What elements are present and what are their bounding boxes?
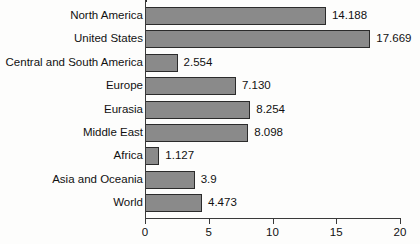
x-axis-tick-label: 10 <box>266 227 279 239</box>
bar-value-label: 14.188 <box>332 10 367 22</box>
x-axis-tick-label: 5 <box>206 227 212 239</box>
bar-value-label: 1.127 <box>165 150 194 162</box>
category-label: North America <box>70 10 143 22</box>
category-label: Africa <box>114 150 143 162</box>
bar <box>145 147 159 165</box>
bar-chart: North AmericaUnited StatesCentral and So… <box>0 0 420 244</box>
bar-value-label: 7.130 <box>242 80 271 92</box>
bar-value-label: 17.669 <box>376 33 411 45</box>
bar <box>145 7 326 25</box>
y-axis-line <box>145 0 146 219</box>
bar-value-label: 2.554 <box>184 57 213 69</box>
x-axis-tick-label: 0 <box>142 227 148 239</box>
bar <box>145 101 250 119</box>
category-label: Europe <box>106 80 143 92</box>
bar-value-label: 8.098 <box>254 127 283 139</box>
x-axis-tick-label: 20 <box>394 227 407 239</box>
category-label: Central and South America <box>6 57 143 69</box>
category-label: Middle East <box>83 127 143 139</box>
x-axis-tick <box>273 219 274 224</box>
bar <box>145 124 248 142</box>
bar <box>145 171 195 189</box>
bar <box>145 54 178 72</box>
x-axis-tick <box>145 219 146 224</box>
plot-area: North AmericaUnited StatesCentral and So… <box>0 0 420 244</box>
x-axis-tick <box>400 219 401 224</box>
bar-value-label: 3.9 <box>201 174 217 186</box>
bar <box>145 194 202 212</box>
bar-value-label: 8.254 <box>256 104 285 116</box>
bar <box>145 30 370 48</box>
x-axis-tick-label: 15 <box>330 227 343 239</box>
bar <box>145 77 236 95</box>
bar-value-label: 4.473 <box>208 197 237 209</box>
category-label: Asia and Oceania <box>52 174 143 186</box>
x-axis-tick <box>336 219 337 224</box>
category-label: World <box>113 197 143 209</box>
category-label: Eurasia <box>104 104 143 116</box>
category-label: United States <box>74 33 143 45</box>
x-axis-tick <box>209 219 210 224</box>
